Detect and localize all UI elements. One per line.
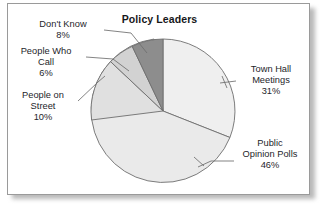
pie-label-people-on-street-value: 10% [4,112,82,123]
pie-label-dont-know-value: 8% [22,30,104,41]
screenshot-root: Policy Leaders [0,0,329,214]
pie-label-people-on-street: People on Street 10% [4,90,82,124]
pie-label-people-who-call: People Who Call 6% [6,46,86,80]
pie-label-people-who-call-line1: People Who [6,46,86,57]
pie-label-people-on-street-line2: Street [4,101,82,112]
pie-label-dont-know-line1: Don't Know [22,19,104,30]
pie-label-town-hall-meetings: Town Hall Meetings 31% [233,64,309,98]
pie-label-people-on-street-line1: People on [4,90,82,101]
pie-label-people-who-call-value: 6% [6,68,86,79]
pie-label-people-who-call-line2: Call [6,57,86,68]
pie-label-town-hall-meetings-line2: Meetings [233,75,309,86]
pie-label-public-opinion-polls-value: 46% [229,160,311,171]
pie-label-public-opinion-polls-line2: Opinion Polls [229,149,311,160]
pie-label-dont-know: Don't Know 8% [22,19,104,41]
pie-label-town-hall-meetings-line1: Town Hall [233,64,309,75]
pie-label-public-opinion-polls-line1: Public [229,138,311,149]
pie-chart-plot-area: Don't Know 8% People Who Call 6% People … [8,4,311,196]
pie-label-public-opinion-polls: Public Opinion Polls 46% [229,138,311,172]
chart-panel: Policy Leaders [7,3,310,195]
pie-label-town-hall-meetings-value: 31% [233,86,309,97]
